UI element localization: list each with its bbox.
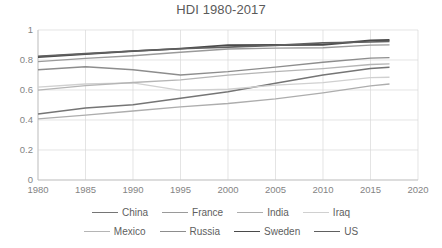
legend-label-china: China — [122, 207, 148, 218]
y-tick-label: 0.8 — [20, 54, 33, 65]
x-tick-label: 1995 — [170, 184, 191, 195]
legend-swatch-china — [92, 212, 118, 213]
series-line-mexico — [38, 64, 390, 90]
y-tick-label: 0.4 — [20, 114, 33, 125]
legend-swatch-india — [237, 212, 263, 213]
legend-label-mexico: Mexico — [114, 226, 146, 237]
legend-label-france: France — [192, 207, 223, 218]
x-tick-label: 2005 — [265, 184, 286, 195]
legend-row-1: China France India Iraq — [0, 203, 442, 222]
legend-swatch-russia — [160, 231, 186, 232]
legend-swatch-sweden — [234, 231, 260, 232]
legend-label-sweden: Sweden — [264, 226, 300, 237]
plot-area: 00.20.40.60.81 1980198519901995200020052… — [0, 0, 442, 200]
legend-item-china[interactable]: China — [92, 207, 148, 218]
legend-label-iraq: Iraq — [333, 207, 350, 218]
y-tick-label: 1 — [28, 24, 33, 35]
series-line-iraq — [38, 77, 390, 90]
x-tick-label: 2020 — [407, 184, 428, 195]
legend-label-india: India — [267, 207, 289, 218]
legend-row-2: Mexico Russia Sweden US — [0, 222, 442, 241]
legend-item-india[interactable]: India — [237, 207, 289, 218]
legend-item-france[interactable]: France — [162, 207, 223, 218]
legend-swatch-us — [314, 231, 340, 232]
x-tick-label: 2010 — [312, 184, 333, 195]
legend-swatch-mexico — [84, 231, 110, 232]
legend-item-iraq[interactable]: Iraq — [303, 207, 350, 218]
y-axis-tick-labels: 00.20.40.60.81 — [20, 24, 33, 185]
legend-item-mexico[interactable]: Mexico — [84, 226, 146, 237]
x-tick-label: 2000 — [217, 184, 238, 195]
legend-label-russia: Russia — [190, 226, 221, 237]
chart-container: HDI 1980-2017 00.20.40.60.81 19801985199… — [0, 0, 442, 248]
legend-item-russia[interactable]: Russia — [160, 226, 221, 237]
x-tick-label: 2015 — [360, 184, 381, 195]
x-axis-tick-labels: 198019851990199520002005201020152020 — [27, 184, 428, 195]
legend-item-sweden[interactable]: Sweden — [234, 226, 300, 237]
y-tick-label: 0.6 — [20, 84, 33, 95]
data-series-group — [38, 40, 390, 119]
x-tick-label: 1990 — [122, 184, 143, 195]
legend-swatch-iraq — [303, 212, 329, 213]
x-tick-label: 1985 — [75, 184, 96, 195]
x-tick-label: 1980 — [27, 184, 48, 195]
chart-legend: China France India Iraq Mexico Russ — [0, 203, 442, 241]
y-tick-label: 0.2 — [20, 144, 33, 155]
legend-swatch-france — [162, 212, 188, 213]
legend-label-us: US — [344, 226, 358, 237]
legend-item-us[interactable]: US — [314, 226, 358, 237]
